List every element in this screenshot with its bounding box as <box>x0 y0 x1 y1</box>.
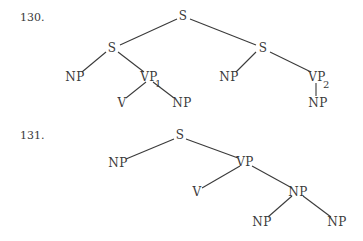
example-number: 131. <box>20 130 45 141</box>
node-np: NP <box>108 157 128 169</box>
subscript-2: 2 <box>323 80 329 90</box>
subscript-1: 1 <box>155 79 161 89</box>
node-np: NP <box>327 216 347 228</box>
node-np: NP <box>65 71 85 83</box>
tree-edges <box>0 0 363 241</box>
node-np: NP <box>219 71 239 83</box>
node-s-root: S <box>179 10 188 22</box>
node-np: NP <box>288 186 308 198</box>
node-v: V <box>117 97 126 109</box>
node-v: V <box>192 186 201 198</box>
node-np: NP <box>172 97 192 109</box>
node-s-root: S <box>176 129 185 141</box>
node-np: NP <box>252 216 272 228</box>
node-np: NP <box>308 97 328 109</box>
example-number: 130. <box>20 12 45 23</box>
node-vp: VP <box>236 156 254 168</box>
node-s-right: S <box>259 42 268 54</box>
node-s-left: S <box>108 42 117 54</box>
